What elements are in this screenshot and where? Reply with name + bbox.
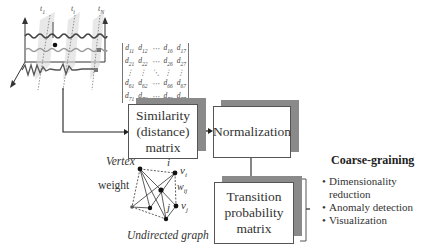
transition-line2: probability bbox=[224, 205, 283, 221]
similarity-line2: (distance) bbox=[136, 124, 189, 140]
similarity-line3: matrix bbox=[145, 140, 180, 156]
list-item-anomaly-detection: Anomaly detection bbox=[322, 201, 413, 214]
similarity-line1: Similarity bbox=[136, 108, 190, 124]
coarse-graining-list: Dimensionalityreduction Anomaly detectio… bbox=[322, 175, 413, 227]
matrix-row: d11d12⋯d16d17 bbox=[123, 43, 188, 56]
arrow-to-similarity bbox=[63, 88, 129, 135]
list-item-visualization: Visualization bbox=[322, 214, 413, 227]
matrix-row: d61d62⋯d66d67 bbox=[123, 78, 188, 91]
matrix-row: ⋮⋮⋱⋮⋮ bbox=[123, 68, 188, 78]
vj-label: vj bbox=[181, 199, 188, 214]
weight-label: weight bbox=[98, 179, 129, 191]
matrix-row: d21d22⋯d26d27 bbox=[123, 56, 188, 69]
time-label-tN: tN bbox=[98, 4, 104, 15]
graph-caption: Undirected graph bbox=[127, 229, 209, 241]
coarse-graining-title: Coarse-graining bbox=[331, 153, 414, 168]
transition-line3: matrix bbox=[236, 221, 271, 237]
list-item-dimensionality: Dimensionalityreduction bbox=[322, 175, 413, 201]
time-series-icon bbox=[10, 12, 108, 90]
node-j-label: j bbox=[167, 201, 170, 213]
normalization-box: Normalization bbox=[213, 106, 291, 158]
distance-matrix: d11d12⋯d16d17 d21d22⋯d26d27 ⋮⋮⋱⋮⋮ d61d62… bbox=[122, 43, 189, 103]
vi-label: vi bbox=[180, 164, 187, 179]
similarity-matrix-box: Similarity (distance) matrix bbox=[128, 104, 198, 159]
transition-line1: Transition bbox=[226, 189, 281, 205]
graph-nodes bbox=[130, 167, 178, 222]
transition-probability-box: Transition probability matrix bbox=[214, 182, 294, 244]
time-label-t1: t1 bbox=[40, 4, 45, 15]
time-label-ti: ti bbox=[71, 4, 75, 15]
normalization-label: Normalization bbox=[213, 124, 291, 140]
wij-label: wij bbox=[177, 181, 187, 194]
node-i-label: i bbox=[167, 156, 170, 168]
vertex-label: Vertex bbox=[106, 155, 135, 167]
